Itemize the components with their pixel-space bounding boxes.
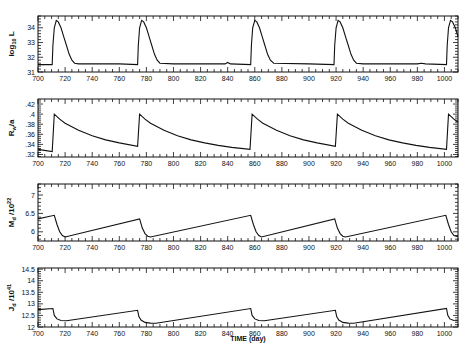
y-tick-label: 6.5 — [25, 210, 35, 217]
panel-2: 7007207407607808008208408608809009209409… — [7, 99, 458, 167]
x-tick-label: 880 — [276, 75, 288, 82]
x-tick-label: 980 — [412, 244, 424, 251]
y-tick-label: .34 — [25, 141, 35, 148]
y-tick-label: 6 — [31, 228, 35, 235]
x-tick-label: 920 — [330, 244, 342, 251]
x-tick-label: 860 — [249, 244, 261, 251]
x-tick-label: 940 — [357, 244, 369, 251]
x-tick-label: 880 — [276, 244, 288, 251]
panel-3: 7007207407607808008208408608809009209409… — [6, 184, 458, 251]
panel-4: 7007207407607808008208408608809009209409… — [6, 266, 458, 337]
x-tick-label: 840 — [222, 244, 234, 251]
x-tick-label: 1000 — [437, 330, 453, 337]
x-tick-label: 800 — [168, 330, 180, 337]
x-tick-label: 920 — [330, 160, 342, 167]
x-tick-label: 760 — [113, 244, 125, 251]
x-tick-label: 1000 — [437, 244, 453, 251]
x-tick-label: 960 — [384, 330, 396, 337]
x-tick-label: 760 — [113, 160, 125, 167]
x-tick-label: 720 — [59, 75, 71, 82]
x-tick-label: 800 — [168, 75, 180, 82]
x-tick-label: 940 — [357, 75, 369, 82]
y-tick-label: 34 — [27, 24, 35, 31]
y-tick-label: 12.5 — [21, 312, 35, 319]
x-tick-label: 720 — [59, 244, 71, 251]
y-tick-label: .4 — [29, 111, 35, 118]
x-tick-label: 740 — [86, 330, 98, 337]
x-tick-label: 760 — [113, 330, 125, 337]
y-tick-label: 13 — [27, 300, 35, 307]
x-tick-label: 1000 — [437, 160, 453, 167]
x-tick-label: 740 — [86, 160, 98, 167]
plot-frame — [38, 99, 458, 157]
x-tick-label: 840 — [222, 75, 234, 82]
x-tick-label: 960 — [384, 75, 396, 82]
y-tick-label: .38 — [25, 121, 35, 128]
x-tick-label: 700 — [32, 160, 44, 167]
x-tick-label: 900 — [303, 160, 315, 167]
x-tick-label: 780 — [141, 330, 153, 337]
x-tick-label: 820 — [195, 244, 207, 251]
y-tick-label: .32 — [25, 151, 35, 158]
x-tick-label: 980 — [412, 75, 424, 82]
y-tick-label: 13.5 — [21, 289, 35, 296]
data-series-line — [38, 20, 458, 64]
y-axis-label: log10 L — [7, 31, 17, 56]
x-tick-label: 860 — [249, 160, 261, 167]
y-tick-label: 12 — [27, 324, 35, 331]
x-tick-label: 740 — [86, 75, 98, 82]
x-tick-label: 780 — [141, 75, 153, 82]
x-tick-label: 960 — [384, 244, 396, 251]
x-tick-label: 900 — [303, 244, 315, 251]
x-tick-label: 1000 — [437, 75, 453, 82]
x-tick-label: 900 — [303, 330, 315, 337]
x-tick-label: 980 — [412, 330, 424, 337]
panel-1: 7007207407607808008208408608809009209409… — [7, 16, 458, 82]
x-tick-label: 820 — [195, 160, 207, 167]
x-tick-label: 960 — [384, 160, 396, 167]
x-tick-label: 720 — [59, 330, 71, 337]
y-tick-label: 32 — [27, 54, 35, 61]
y-tick-label: 31 — [27, 69, 35, 76]
y-tick-label: 7 — [31, 192, 35, 199]
x-tick-label: 700 — [32, 244, 44, 251]
plot-frame — [38, 184, 458, 241]
x-tick-label: 820 — [195, 75, 207, 82]
x-tick-label: 900 — [303, 75, 315, 82]
data-series-line — [38, 215, 458, 237]
x-tick-label: 820 — [195, 330, 207, 337]
y-tick-label: 14.5 — [21, 266, 35, 273]
x-tick-label: 980 — [412, 160, 424, 167]
y-tick-label: 33 — [27, 39, 35, 46]
y-tick-label: .36 — [25, 131, 35, 138]
x-tick-label: 840 — [222, 160, 234, 167]
plot-frame — [38, 268, 458, 327]
y-axis-label: Jd /1041 — [6, 284, 17, 311]
x-tick-label: 860 — [249, 75, 261, 82]
x-tick-label: 780 — [141, 244, 153, 251]
data-series-line — [38, 309, 458, 324]
x-tick-label: 920 — [330, 75, 342, 82]
x-tick-label: 700 — [32, 75, 44, 82]
x-tick-label: 940 — [357, 160, 369, 167]
x-tick-label: 880 — [276, 330, 288, 337]
y-axis-label: Rw/a — [7, 119, 17, 136]
y-tick-label: 14 — [27, 277, 35, 284]
x-tick-label: 940 — [357, 330, 369, 337]
x-tick-label: 880 — [276, 160, 288, 167]
data-series-line — [38, 114, 458, 151]
x-tick-label: 800 — [168, 160, 180, 167]
x-tick-label: 800 — [168, 244, 180, 251]
x-tick-label: 760 — [113, 75, 125, 82]
x-tick-label: 780 — [141, 160, 153, 167]
x-tick-label: 700 — [32, 330, 44, 337]
stacked-time-series-figure: 7007207407607808008208408608809009209409… — [0, 0, 475, 354]
x-tick-label: 720 — [59, 160, 71, 167]
x-tick-label: 920 — [330, 330, 342, 337]
y-axis-label: Md /1022 — [6, 198, 17, 228]
y-tick-label: .42 — [25, 101, 35, 108]
x-axis-label: TIME (day) — [230, 335, 265, 343]
x-tick-label: 740 — [86, 244, 98, 251]
